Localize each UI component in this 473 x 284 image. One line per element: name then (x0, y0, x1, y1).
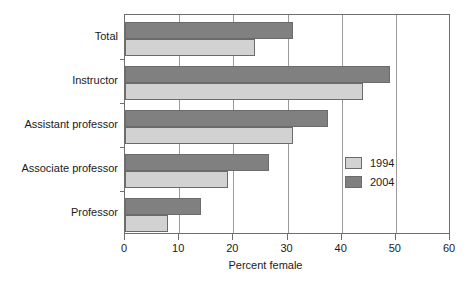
legend-label-2004: 2004 (370, 176, 394, 188)
bar-associate-professor-1994 (125, 171, 228, 188)
bar-instructor-2004 (125, 66, 390, 83)
xtick-label-60: 60 (429, 242, 469, 255)
xtick-label-10: 10 (158, 242, 198, 255)
bar-total-2004 (125, 22, 293, 39)
xtick-mark-60 (449, 234, 450, 240)
legend-label-1994: 1994 (370, 157, 394, 169)
gridline-50 (396, 15, 397, 233)
legend-item-1994: 1994 (345, 157, 394, 169)
xtick-mark-30 (287, 234, 288, 240)
xtick-label-20: 20 (212, 242, 252, 255)
xtick-mark-10 (178, 234, 179, 240)
gridline-40 (342, 15, 343, 233)
category-tick-3 (120, 147, 125, 148)
legend-swatch-2004-icon (345, 176, 362, 188)
category-tick-4 (120, 191, 125, 192)
xtick-mark-50 (395, 234, 396, 240)
xtick-label-50: 50 (375, 242, 415, 255)
bar-assistant-professor-1994 (125, 127, 293, 144)
xtick-label-30: 30 (267, 242, 307, 255)
bar-assistant-professor-2004 (125, 110, 328, 127)
plot-area (124, 14, 450, 234)
bar-chart: Total Instructor Assistant professor Ass… (0, 0, 473, 284)
category-label-associate-professor: Associate professor (21, 162, 118, 174)
bar-associate-professor-2004 (125, 154, 269, 171)
legend-item-2004: 2004 (345, 176, 394, 188)
category-label-professor: Professor (71, 206, 118, 218)
category-tick-1 (120, 59, 125, 60)
x-axis-title: Percent female (0, 259, 473, 271)
x-axis-title-text: Percent female (229, 259, 303, 271)
xtick-label-0: 0 (104, 242, 144, 255)
bar-total-1994 (125, 39, 255, 56)
xtick-mark-40 (341, 234, 342, 240)
bar-instructor-1994 (125, 83, 363, 100)
xtick-mark-0 (124, 234, 125, 240)
legend-swatch-1994-icon (345, 157, 362, 169)
xtick-mark-20 (232, 234, 233, 240)
bar-professor-2004 (125, 198, 201, 215)
category-label-assistant-professor: Assistant professor (24, 118, 118, 130)
category-tick-2 (120, 103, 125, 104)
xtick-label-40: 40 (321, 242, 361, 255)
category-label-instructor: Instructor (72, 74, 118, 86)
bar-professor-1994 (125, 215, 168, 232)
legend: 1994 2004 (345, 157, 394, 188)
category-label-total: Total (95, 30, 118, 42)
